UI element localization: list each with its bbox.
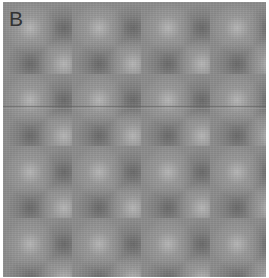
- image-noise-texture: [3, 2, 266, 277]
- panel-label: B: [9, 8, 23, 29]
- horizontal-scan-artifact-highlight: [3, 108, 266, 109]
- horizontal-scan-artifact: [3, 106, 266, 107]
- figure-panel-image: B: [3, 2, 266, 277]
